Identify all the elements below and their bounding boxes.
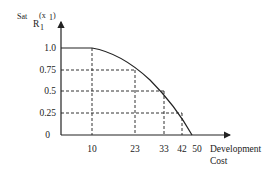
x-axis-label-line1: Development (210, 144, 262, 154)
y-tick-075: 0.75 (39, 65, 56, 75)
y-label-R: R (33, 19, 40, 29)
x-tick-42: 42 (177, 144, 187, 154)
y-label-arg: (x (39, 11, 46, 20)
x-axis-label-line2: Cost (210, 156, 228, 166)
chart: 1.0 0.75 0.5 0.25 0 10 23 33 42 50 Devel… (0, 0, 271, 173)
x-tick-33: 33 (159, 144, 169, 154)
y-tick-05: 0.5 (44, 86, 56, 96)
y-label-R-sub: 1 (40, 23, 44, 32)
x-tick-23: 23 (130, 144, 140, 154)
y-tick-1: 1.0 (44, 43, 56, 53)
y-tick-0: 0 (45, 130, 50, 140)
y-label-prefix: Sat (17, 12, 28, 21)
guide-lines (61, 48, 182, 135)
y-label-arg-close: ) (53, 11, 56, 20)
x-tick-10: 10 (87, 144, 97, 154)
x-tick-50: 50 (192, 144, 202, 154)
y-tick-025: 0.25 (39, 108, 56, 118)
y-axis-label: Sat R 1 (x 1 ) (17, 11, 56, 32)
